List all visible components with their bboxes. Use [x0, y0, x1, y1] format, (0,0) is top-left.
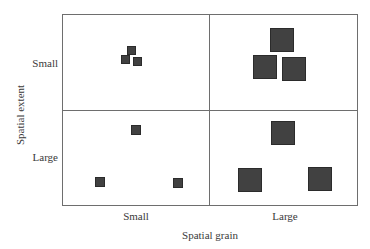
- square-small-extent-small-grain: [127, 46, 136, 55]
- square-large-extent-large-grain: [308, 167, 332, 191]
- y-axis-label: Spatial extent: [14, 85, 26, 145]
- extent-divider: [62, 110, 358, 111]
- square-small-extent-large-grain: [282, 57, 306, 81]
- y-tick-large: Large: [33, 151, 58, 163]
- square-large-extent-large-grain: [238, 168, 262, 192]
- square-small-extent-large-grain: [253, 55, 277, 79]
- square-large-extent-small-grain: [131, 125, 141, 135]
- square-small-extent-small-grain: [121, 55, 130, 64]
- square-large-extent-small-grain: [95, 177, 105, 187]
- y-tick-small: Small: [32, 57, 58, 69]
- square-small-extent-large-grain: [270, 28, 294, 52]
- square-large-extent-small-grain: [173, 178, 183, 188]
- x-tick-small: Small: [123, 210, 149, 222]
- square-large-extent-large-grain: [271, 121, 295, 145]
- x-axis-label: Spatial grain: [182, 229, 238, 241]
- x-tick-large: Large: [272, 210, 297, 222]
- square-small-extent-small-grain: [133, 57, 142, 66]
